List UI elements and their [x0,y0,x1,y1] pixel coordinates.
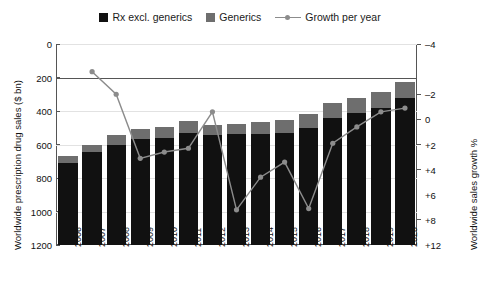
tick-mark [417,119,421,120]
growth-point-marker[interactable] [354,124,359,129]
x-tick-label-2009: 2009 [145,227,155,247]
y-axis-right-title: Worldwide sales growth % [468,139,479,250]
growth-point-marker[interactable] [258,175,263,180]
y-tick-right--4: +12 [425,240,441,251]
y-tick-left-1000: 200 [36,72,52,83]
growth-point-marker[interactable] [114,92,119,97]
y-tick-left-800: 400 [36,106,52,117]
growth-point-marker[interactable] [162,149,167,154]
growth-line-path [92,72,405,210]
legend-item-growth-per-year: Growth per year [275,11,380,23]
x-tick-label-2019: 2019 [385,227,395,247]
x-tick-label-2010: 2010 [169,227,179,247]
tick-mark [417,94,421,95]
legend-label-rx: Rx excl. generics [112,11,192,23]
y-axis-left-title: Worldwide prescription drug sales ($ bn) [12,80,23,250]
tick-mark [417,219,421,220]
growth-point-marker[interactable] [138,156,143,161]
y-tick-right-6: 0 [425,114,430,125]
legend-swatch-rx-icon [99,13,108,22]
x-tick-label-2013: 2013 [241,227,251,247]
growth-point-marker[interactable] [90,69,95,74]
legend-line-marker-icon [275,13,301,22]
x-tick-label-2008: 2008 [121,227,131,247]
y-tick-right-0: +6 [425,189,436,200]
growth-point-marker[interactable] [210,109,215,114]
y-tick-right-4: +2 [425,139,436,150]
growth-point-marker[interactable] [402,105,407,110]
growth-point-marker[interactable] [306,206,311,211]
legend-item-generics: Generics [206,11,261,23]
legend-item-rx-excl-generics: Rx excl. generics [99,11,192,23]
y-tick-left-1200: 0 [47,39,52,50]
plot-area: 120010008006004002000 +12+8+6+4+20–2–4 2… [56,44,417,245]
chart-legend: Rx excl. generics Generics Growth per ye… [0,8,480,26]
x-tick-label-2006: 2006 [73,227,83,247]
tick-mark [417,44,421,45]
y-tick-left-200: 1000 [31,206,52,217]
growth-point-marker[interactable] [330,141,335,146]
x-tick-label-2007: 2007 [97,227,107,247]
x-tick-label-2020: 2020 [409,227,419,247]
growth-point-marker[interactable] [282,159,287,164]
y-tick-left-600: 600 [36,139,52,150]
y-tick-right--2: +8 [425,214,436,225]
legend-swatch-generics-icon [206,13,215,22]
growth-point-marker[interactable] [378,109,383,114]
growth-line-series [56,44,417,245]
y-tick-right-12: –4 [425,39,436,50]
x-tick-label-2014: 2014 [265,227,275,247]
y-tick-right-8: –2 [425,89,436,100]
x-tick-label-2012: 2012 [217,227,227,247]
growth-point-marker[interactable] [234,207,239,212]
tick-mark [417,144,421,145]
y-tick-right-2: +4 [425,164,436,175]
legend-label-generics: Generics [219,11,261,23]
chart-container: Rx excl. generics Generics Growth per ye… [0,0,480,293]
y-tick-left-0: 1200 [31,240,52,251]
tick-mark [417,169,421,170]
x-tick-label-2017: 2017 [337,227,347,247]
legend-label-growth: Growth per year [305,11,380,23]
x-tick-label-2018: 2018 [361,227,371,247]
growth-point-marker[interactable] [186,146,191,151]
x-tick-label-2011: 2011 [193,228,203,247]
y-tick-left-400: 800 [36,173,52,184]
x-tick-label-2016: 2016 [313,227,323,247]
x-tick-label-2015: 2015 [289,227,299,247]
